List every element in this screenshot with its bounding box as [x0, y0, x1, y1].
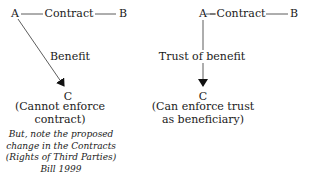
note-line: But, note the proposed [6, 129, 116, 141]
left-c-caption-1: (Cannot enforce [15, 101, 105, 113]
right-party-b: B [290, 8, 298, 20]
left-party-a: A [11, 8, 19, 20]
left-party-b: B [119, 8, 127, 20]
right-party-a: A [199, 8, 207, 20]
proposed-change-note: But, note the proposed change in the Con… [6, 129, 116, 175]
note-line: change in the Contracts [6, 141, 116, 153]
benefit-label: Benefit [50, 51, 90, 63]
trust-of-benefit-label: Trust of benefit [158, 51, 246, 63]
right-c-caption-1: (Can enforce trust [152, 101, 254, 113]
right-contract-label: Contract [217, 8, 266, 20]
note-line: Bill 1999 [6, 164, 116, 176]
left-contract-label: Contract [45, 8, 94, 20]
left-c-caption-2: contract) [35, 114, 86, 126]
right-c-caption-2: as beneficiary) [162, 114, 244, 126]
note-line: (Rights of Third Parties) [6, 152, 116, 164]
